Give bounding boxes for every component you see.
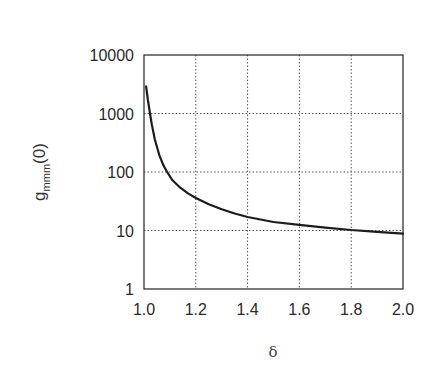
y-tick-label: 100 bbox=[107, 164, 134, 181]
y-tick-label: 1000 bbox=[98, 106, 134, 123]
y-tick-label: 1 bbox=[125, 281, 134, 298]
y-axis-label: gmmm(0) bbox=[30, 143, 52, 201]
x-tick-label: 1.4 bbox=[236, 301, 258, 318]
chart: 110100100010000 1.01.21.41.61.82.0 gmmm(… bbox=[0, 0, 440, 385]
x-axis-label: δ bbox=[268, 343, 277, 361]
y-axis-label-main: g bbox=[30, 191, 49, 200]
y-axis-tick-labels: 110100100010000 bbox=[90, 47, 135, 298]
x-tick-label: 1.0 bbox=[133, 301, 155, 318]
x-tick-label: 1.6 bbox=[288, 301, 310, 318]
y-tick-label: 10 bbox=[116, 223, 134, 240]
x-tick-label: 1.8 bbox=[340, 301, 362, 318]
x-tick-label: 1.2 bbox=[185, 301, 207, 318]
data-line-g-mmm bbox=[146, 86, 403, 233]
y-tick-label: 10000 bbox=[90, 47, 135, 64]
x-axis-tick-labels: 1.01.21.41.61.82.0 bbox=[133, 301, 414, 318]
svg-text:gmmm(0): gmmm(0) bbox=[30, 143, 52, 201]
x-tick-label: 2.0 bbox=[392, 301, 414, 318]
y-axis-label-suffix: (0) bbox=[30, 143, 49, 164]
grid-lines bbox=[144, 55, 403, 289]
y-axis-label-subscript: mmm bbox=[40, 164, 52, 192]
